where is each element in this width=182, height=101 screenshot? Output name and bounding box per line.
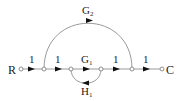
- branch-gain-label: 1: [143, 53, 149, 65]
- feedback-gain-h1: H1: [81, 85, 93, 99]
- output-label: C: [166, 63, 174, 77]
- arrow-icon: [55, 67, 62, 72]
- branch-gain-g1: G1: [81, 53, 93, 67]
- signal-flow-graph: R C 1 1 G1 1 1 G2 H1: [0, 0, 182, 101]
- node-output: [160, 67, 164, 71]
- feedforward-gain-g2: G2: [82, 4, 94, 18]
- branch-gain-label: 1: [29, 53, 35, 65]
- arrow-icon: [113, 67, 120, 72]
- feedback-loop: [71, 69, 101, 83]
- arrow-icon: [143, 67, 150, 72]
- node: [130, 67, 134, 71]
- node: [99, 67, 103, 71]
- arrow-icon: [86, 18, 93, 23]
- node-input: [19, 67, 23, 71]
- arrow-icon: [28, 67, 35, 72]
- arrow-icon: [83, 67, 90, 72]
- input-label: R: [8, 63, 16, 77]
- branch-gain-label: 1: [113, 53, 119, 65]
- node: [42, 67, 46, 71]
- branch-gain-label: 1: [55, 53, 61, 65]
- node: [69, 67, 73, 71]
